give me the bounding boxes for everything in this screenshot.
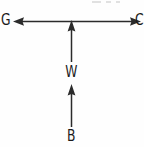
edge-b-to-w (68, 84, 76, 127)
arrowhead-left-to-g (13, 17, 24, 26)
node-label-c: C (135, 13, 144, 28)
node-label-w: W (65, 65, 76, 80)
arrow-diagram: G C W B (0, 0, 144, 147)
edge-w-to-line (68, 20, 76, 62)
scan-artifact-speck (106, 1, 111, 3)
node-label-g: G (1, 13, 11, 28)
arrowhead-up-to-w (68, 84, 76, 96)
edge-g-to-c (13, 17, 141, 26)
node-label-b: B (65, 129, 76, 144)
scan-artifact-speck (116, 1, 120, 3)
scan-artifact-speck (92, 1, 101, 3)
